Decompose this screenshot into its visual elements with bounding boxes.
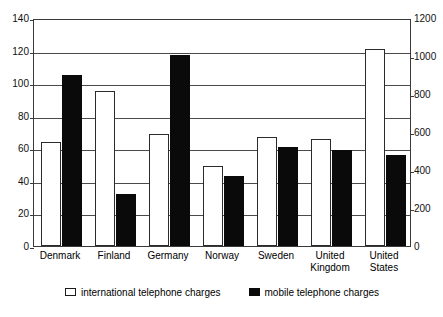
plot-area: [33, 19, 411, 247]
bar-group-container: [34, 20, 410, 246]
category-label: United Kingdom: [303, 250, 357, 273]
chart-legend: international telephone chargesmobile te…: [33, 284, 411, 300]
bar: [203, 166, 223, 246]
left-axis-tick-mark: [30, 215, 34, 216]
right-axis-tick-label: 600: [414, 128, 431, 138]
right-axis-tick-label: 1000: [414, 52, 436, 62]
right-axis-tick-label: 800: [414, 90, 431, 100]
category-label: Norway: [195, 250, 249, 262]
category-label: Sweden: [249, 250, 303, 262]
left-axis-tick-label: 80: [18, 112, 29, 122]
legend-label: mobile telephone charges: [265, 287, 380, 298]
left-axis-tick-label: 20: [18, 209, 29, 219]
left-axis-tick-mark: [30, 85, 34, 86]
left-axis-tick-mark: [30, 20, 34, 21]
legend-label: international telephone charges: [81, 287, 221, 298]
left-axis-tick-mark: [30, 150, 34, 151]
right-axis-tick-label: 200: [414, 204, 431, 214]
legend-entry: international telephone charges: [65, 287, 221, 298]
right-axis-tick-mark: [410, 210, 414, 211]
left-axis-tick-label: 120: [12, 47, 29, 57]
right-value-axis: 020040060080010001200: [414, 0, 443, 317]
left-axis-tick-label: 100: [12, 79, 29, 89]
bar: [278, 147, 298, 246]
left-axis-tick-label: 60: [18, 144, 29, 154]
category-label: Finland: [87, 250, 141, 262]
category-label: United States: [357, 250, 411, 273]
left-value-axis: 020406080100120140: [0, 0, 29, 317]
bar: [332, 150, 352, 246]
bar: [149, 134, 169, 246]
category-label: Denmark: [33, 250, 87, 262]
right-axis-tick-label: 0: [414, 242, 420, 252]
bar: [386, 155, 406, 246]
bar: [116, 194, 136, 246]
bar-chart: 020406080100120140 020040060080010001200…: [0, 0, 443, 317]
bar: [311, 139, 331, 246]
left-axis-tick-mark: [30, 248, 34, 249]
category-label: Germany: [141, 250, 195, 262]
left-axis-tick-label: 140: [12, 14, 29, 24]
bar: [365, 49, 385, 246]
bar: [41, 142, 61, 246]
right-axis-tick-label: 400: [414, 166, 431, 176]
bar: [170, 55, 190, 246]
bar: [95, 91, 115, 246]
right-axis-tick-mark: [410, 172, 414, 173]
left-axis-tick-label: 0: [23, 242, 29, 252]
left-axis-tick-label: 40: [18, 177, 29, 187]
black-square-icon: [249, 288, 260, 296]
legend-entry: mobile telephone charges: [249, 287, 380, 298]
left-axis-tick-mark: [30, 53, 34, 54]
right-axis-tick-mark: [410, 58, 414, 59]
bar: [257, 137, 277, 246]
right-axis-tick-label: 1200: [414, 14, 436, 24]
right-axis-tick-mark: [410, 134, 414, 135]
left-axis-tick-mark: [30, 183, 34, 184]
category-axis-labels: DenmarkFinlandGermanyNorwaySwedenUnited …: [33, 250, 411, 282]
white-square-icon: [65, 288, 76, 296]
right-axis-tick-mark: [410, 96, 414, 97]
bar: [224, 176, 244, 246]
left-axis-tick-mark: [30, 118, 34, 119]
bar: [62, 75, 82, 246]
